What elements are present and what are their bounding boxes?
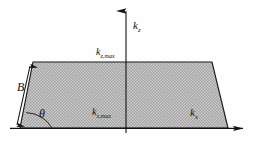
k-z-max-label-sub: z,max [100,52,114,59]
k-x-max-label: kx,max [92,107,111,119]
aperture-label: B [17,81,24,93]
k-z-axis-label-sub: z [138,26,141,33]
figure-container: kz kz,max kx,max kx B θ [0,0,262,143]
angle-label: θ [39,108,45,120]
k-z-max-label: kz,max [96,47,115,59]
diagram-canvas [0,0,262,143]
k-x-max-label-sub: x,max [96,112,111,119]
k-x-axis-label: kx [190,107,198,121]
k-z-axis-label: kz [133,20,141,34]
k-x-axis-label-sub: x [195,113,198,120]
